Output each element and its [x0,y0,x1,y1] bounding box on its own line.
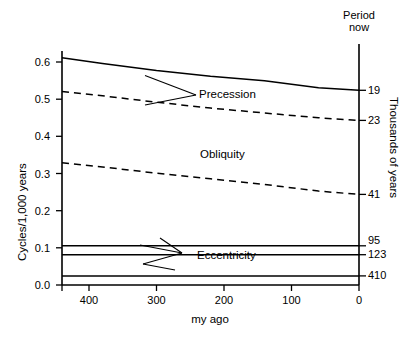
y-tick-label-0-5: 0.5 [22,93,50,105]
right-tick-label-123: 123 [368,248,398,260]
series-label-eccentricity: Eccentricity [197,249,256,262]
y-tick-label-0-0: 0.0 [22,279,50,291]
x-tick-label-300: 300 [140,294,174,306]
milankovitch-cycles-chart: 0.0 0.1 0.2 0.3 0.4 0.5 0.6 400 300 200 … [0,0,411,337]
y-axis-right-title: Thousands of years [387,97,400,198]
x-axis-title: my ago [150,313,270,326]
x-tick-label-100: 100 [275,294,309,306]
x-tick-label-400: 400 [72,294,106,306]
series-obliquity-41ka [62,163,359,195]
y-axis-right-ticks [359,90,366,276]
right-axis-header-line1: Period [329,9,389,22]
series-precession-19ka [62,58,359,91]
series-label-precession: Precession [199,88,256,101]
x-tick-label-200: 200 [207,294,241,306]
y-tick-label-0-4: 0.4 [22,130,50,142]
x-axis-ticks [62,285,359,291]
y-axis-left-ticks [56,62,62,285]
right-tick-label-19: 19 [368,84,398,96]
x-tick-label-0: 0 [342,294,376,306]
leader-lines-precession [145,76,196,106]
right-tick-label-95: 95 [368,234,398,246]
right-tick-label-410: 410 [368,269,398,281]
series-label-obliquity: Obliquity [200,148,245,161]
y-tick-label-0-6: 0.6 [22,56,50,68]
chart-plot-area [0,0,411,337]
right-axis-header-line2: now [329,21,389,34]
y-axis-left-title: Cycles/1,000 years [16,163,29,261]
